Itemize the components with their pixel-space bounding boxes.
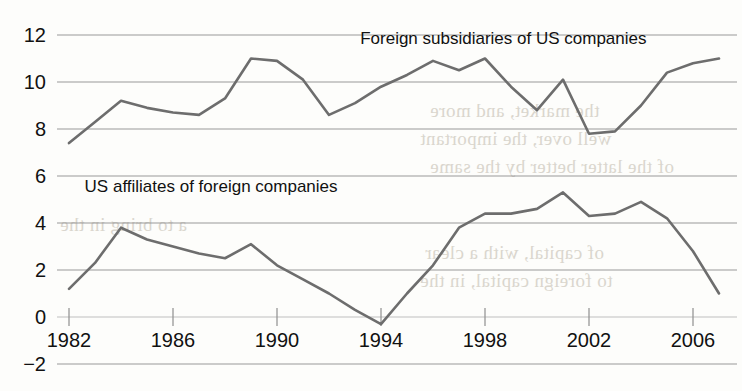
x-axis-tick-label: 1990 — [255, 329, 300, 351]
y-axis-tick-label: 4 — [35, 212, 46, 234]
y-axis-tick-label: 8 — [35, 118, 46, 140]
y-axis-tick-label: 2 — [35, 259, 46, 281]
series-annotation-label: US affiliates of foreign companies — [85, 177, 338, 196]
series-line — [69, 59, 719, 144]
x-axis-tick-label: 1994 — [359, 329, 404, 351]
y-axis-tick-label: −2 — [23, 353, 46, 375]
line-chart-svg: 121086420−2 1982198619901994199820022006… — [0, 0, 742, 391]
x-axis-tick-label: 2006 — [671, 329, 716, 351]
x-axis-tick-label: 2002 — [567, 329, 612, 351]
y-axis-tick-label: 0 — [35, 306, 46, 328]
x-axis-tick-label: 1982 — [47, 329, 92, 351]
y-axis-tick-label: 10 — [24, 71, 46, 93]
x-axis-tick-label: 1998 — [463, 329, 508, 351]
series-annotation-label: Foreign subsidiaries of US companies — [360, 29, 646, 48]
series-line — [69, 192, 719, 324]
chart-container: the market, and more well over, the impo… — [0, 0, 742, 391]
y-axis-tick-label: 6 — [35, 165, 46, 187]
y-axis-tick-label: 12 — [24, 24, 46, 46]
gridlines — [57, 35, 737, 364]
y-axis-tick-labels: 121086420−2 — [23, 24, 46, 375]
x-axis-tick-label: 1986 — [151, 329, 196, 351]
x-axis-tick-labels: 1982198619901994199820022006 — [47, 329, 716, 351]
